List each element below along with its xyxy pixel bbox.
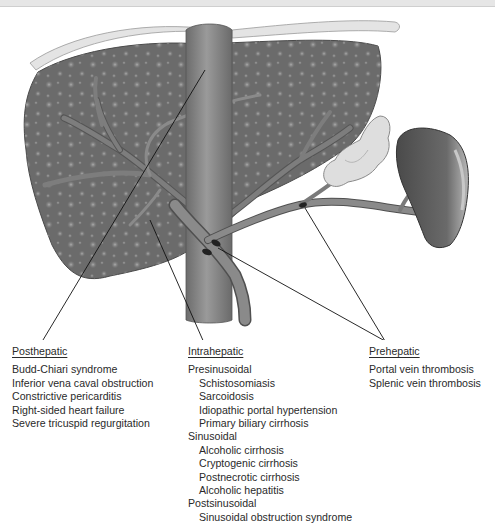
list-item: Splenic vein thrombosis [369,377,481,390]
list-item: Postnecrotic cirrhosis [188,471,352,484]
inferior-vena-cava [186,24,232,323]
list-item: Primary biliary cirrhosis [188,417,352,430]
list-item: Severe tricuspid regurgitation [12,417,153,430]
posthepatic-group: Posthepatic Budd-Chiari syndrome Inferio… [12,345,153,430]
list-item: Portal vein thrombosis [369,363,481,376]
section-label-sinusoidal: Sinusoidal [188,430,352,443]
liver-portal-system-illustration [0,0,495,340]
intrahepatic-group: Intrahepatic Presinusoidal Schistosomias… [188,345,352,523]
section-label-presinusoidal: Presinusoidal [188,363,352,376]
spleen [396,128,468,248]
list-item: Sarcoidosis [188,390,352,403]
list-item: Constrictive pericarditis [12,390,153,403]
list-item: Right-sided heart failure [12,404,153,417]
list-item: Alcoholic hepatitis [188,484,352,497]
list-item: Sinusoidal obstruction syndrome [188,511,352,523]
list-item: Idiopathic portal hypertension [188,404,352,417]
list-item: Inferior vena caval obstruction [12,377,153,390]
posthepatic-title: Posthepatic [12,345,153,358]
intrahepatic-title: Intrahepatic [188,345,352,358]
prehepatic-title: Prehepatic [369,345,481,358]
section-label-postsinusoidal: Postsinusoidal [188,497,352,510]
list-item: Budd-Chiari syndrome [12,363,153,376]
prehepatic-leader-2 [305,208,385,340]
list-item: Schistosomiasis [188,377,352,390]
list-item: Cryptogenic cirrhosis [188,457,352,470]
list-item: Alcoholic cirrhosis [188,444,352,457]
prehepatic-group: Prehepatic Portal vein thrombosis Spleni… [369,345,481,390]
